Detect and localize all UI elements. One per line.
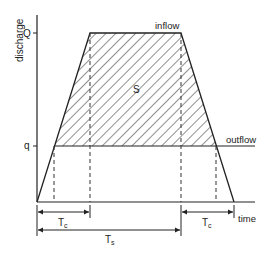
outflow-label: outflow [226, 134, 256, 145]
storage-hydrograph-diagram: discharge Q q inflow outflow S time Tc T… [0, 0, 271, 257]
y-axis-label: discharge [14, 18, 25, 62]
tc-right-label: Tc [202, 217, 212, 229]
Q-label: Q [23, 28, 31, 39]
q-label: q [24, 140, 30, 151]
x-axis-label: time [238, 213, 256, 224]
tc-left-label: Tc [58, 217, 68, 229]
inflow-label: inflow [155, 20, 179, 31]
storage-label: S [133, 84, 140, 95]
ts-label: Ts [105, 234, 115, 246]
